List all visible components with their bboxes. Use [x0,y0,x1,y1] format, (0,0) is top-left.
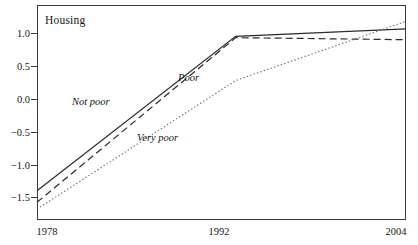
y-tick-mark [31,197,37,198]
x-tick-label: 1992 [209,226,230,237]
y-tick-label: −0.5 [11,127,30,138]
y-tick-label: 0.5 [17,61,30,72]
y-tick-mark [31,33,37,34]
y-tick-mark [31,132,37,133]
y-tick-label: 1.0 [17,28,30,39]
x-tick-label: 1978 [37,226,58,237]
y-tick-mark [31,99,37,100]
series-label-not-poor: Not poor [72,96,110,107]
y-tick-label: −1.0 [11,160,30,171]
y-tick-mark [31,66,37,67]
x-axis: 197819922004 [0,224,418,245]
y-tick-label: 0.0 [17,94,30,105]
y-tick-label: −1.5 [11,192,30,203]
plot-frame [37,5,406,220]
x-tick-label: 2004 [386,226,407,237]
y-tick-mark [31,165,37,166]
y-axis: 1.00.50.0−0.5−1.0−1.5 [0,0,35,245]
housing-line-chart: Housing 1.00.50.0−0.5−1.0−1.5 1978199220… [0,0,418,245]
panel-title: Housing [45,14,85,26]
series-label-very-poor: Very poor [137,132,178,143]
series-label-poor: Poor [178,72,199,83]
